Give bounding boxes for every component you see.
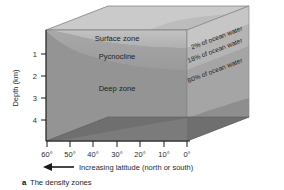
caption-letter: a xyxy=(22,178,27,187)
y-tick-label-4: 4 xyxy=(33,116,37,125)
x-tick-label-40: 40° xyxy=(87,150,98,159)
zone-label-surface-zone: Surface zone xyxy=(95,34,140,43)
y-tick-label-1: 1 xyxy=(33,50,37,59)
zone-label-deep-zone: Deep zone xyxy=(99,84,136,93)
y-axis-title: Depth (km) xyxy=(11,69,20,107)
zone-label-pycnocline: Pycnocline xyxy=(99,52,136,61)
x-tick-label-60: 60° xyxy=(41,150,52,159)
x-tick-label-20: 20° xyxy=(134,150,145,159)
y-tick-label-2: 2 xyxy=(33,72,37,81)
x-axis-title: Increasing latitude (north or south) xyxy=(79,163,194,172)
caption-label: The density zones xyxy=(30,178,92,187)
x-tick-label-0: 0° xyxy=(183,150,190,159)
x-tick-label-50: 50° xyxy=(64,150,75,159)
x-tick-label-30: 30° xyxy=(111,150,122,159)
x-tick-label-10: 10° xyxy=(158,150,169,159)
density-zones-figure: Surface zone Pycnocline Deep zone 2% of … xyxy=(0,0,284,190)
figure-caption: a The density zones xyxy=(22,178,92,187)
ocean-density-zones-diagram: Surface zone Pycnocline Deep zone 2% of … xyxy=(0,0,284,190)
y-tick-label-3: 3 xyxy=(33,94,37,103)
